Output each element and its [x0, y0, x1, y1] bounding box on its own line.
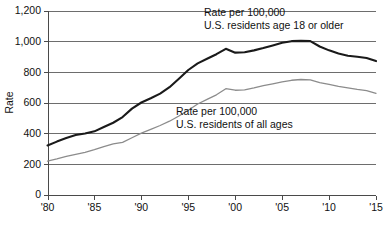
x-tick-label-15: '15	[369, 201, 383, 213]
line-chart: 02004006008001,0001,200 '80'85'90'95'00'…	[0, 0, 384, 225]
axis-titles: Rate	[3, 91, 15, 113]
x-tick-label-85: '85	[88, 201, 102, 213]
x-tick-label-90: '90	[135, 201, 149, 213]
y-tick-label-1,200: 1,200	[15, 4, 41, 16]
annotation-all-ages: Rate per 100,000U.S. residents of all ag…	[176, 105, 293, 130]
y-tick-label-200: 200	[23, 158, 41, 170]
y-axis-title: Rate	[3, 91, 15, 113]
x-tick-label-05: '05	[275, 201, 289, 213]
gridlines-group	[48, 12, 377, 165]
y-tick-label-800: 800	[23, 66, 41, 78]
x-tick-label-00: '00	[228, 201, 242, 213]
y-tick-label-1,000: 1,000	[15, 35, 41, 47]
y-tick-label-600: 600	[23, 96, 41, 108]
y-tick-label-400: 400	[23, 127, 41, 139]
chart-canvas: 02004006008001,0001,200 '80'85'90'95'00'…	[0, 0, 384, 225]
x-tick-label-95: '95	[181, 201, 195, 213]
x-tick-label-10: '10	[322, 201, 336, 213]
series-group	[48, 41, 377, 161]
x-tick-labels: '80'85'90'95'00'05'10'15	[41, 201, 383, 213]
x-tick-label-80: '80	[41, 201, 55, 213]
annotation-adults: Rate per 100,000U.S. residents age 18 or…	[204, 6, 344, 31]
y-tick-labels: 02004006008001,0001,200	[15, 4, 41, 200]
y-tick-label-0: 0	[35, 188, 41, 200]
annotations-group: Rate per 100,000U.S. residents age 18 or…	[176, 6, 344, 130]
